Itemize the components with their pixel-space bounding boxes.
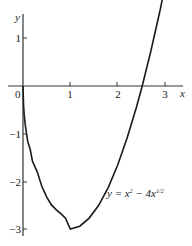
x-axis-label: x [179, 87, 185, 99]
x-tick-label-3: 3 [162, 88, 168, 100]
origin-label: 0 [15, 88, 21, 100]
equation-exponent-2: 1/2 [156, 188, 164, 194]
y-axis-label: y [14, 11, 20, 23]
x-tick-label-1: 1 [67, 88, 73, 100]
curve-equation: y = x2 − 4x1/2 [106, 187, 164, 199]
x-tick-label-2: 2 [115, 88, 121, 100]
y-tick-label-m3: −3 [9, 223, 21, 235]
y-tick-label-1: 1 [16, 32, 22, 44]
equation-lhs: y = x [106, 187, 130, 199]
equation-mid: − 4x [133, 187, 156, 199]
y-tick-label-m1: −1 [9, 128, 21, 140]
y-tick-label-m2: −2 [9, 176, 21, 188]
chart-canvas: y x 0 1 2 3 1 −1 −2 −3 y = x2 − 4x1/2 [0, 0, 192, 246]
